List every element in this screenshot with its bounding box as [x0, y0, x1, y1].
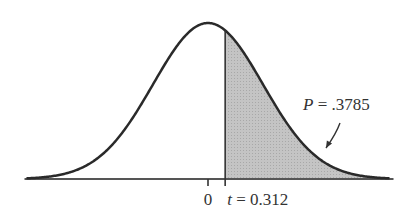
p-symbol: P [302, 95, 313, 114]
p-value-annotation: P = .3785 [302, 95, 370, 114]
zero-tick-label: 0 [204, 190, 213, 209]
t-distribution-chart: 0 t = 0.312 P = .3785 [0, 0, 407, 218]
t-tick-label: t = 0.312 [227, 190, 288, 209]
t-value-text: = 0.312 [232, 190, 288, 209]
p-value-text: = .3785 [313, 95, 369, 114]
